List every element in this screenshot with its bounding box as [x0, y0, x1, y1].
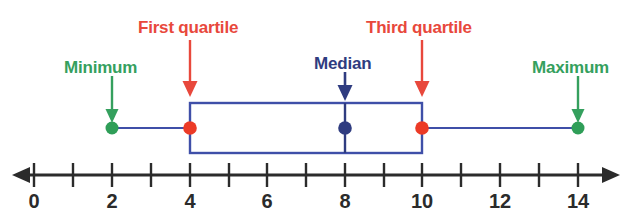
axis-right-arrowhead [602, 167, 620, 183]
interquartile-box [190, 103, 422, 153]
boxplot-diagram: Minimum First quartile Median Third quar… [0, 0, 632, 218]
first-quartile-arrow [183, 40, 198, 97]
median-arrow [338, 72, 353, 101]
third-quartile-dot [415, 121, 429, 135]
maximum-dot [572, 122, 585, 135]
tick-label-14: 14 [567, 190, 589, 213]
third-quartile-label: Third quartile [366, 18, 472, 38]
maximum-label: Maximum [532, 58, 609, 78]
median-dot [338, 121, 352, 135]
tick-label-4: 4 [184, 190, 195, 213]
boxplot-graphic [0, 0, 632, 218]
tick-label-8: 8 [339, 190, 350, 213]
tick-label-0: 0 [28, 190, 39, 213]
median-label: Median [314, 54, 371, 74]
tick-label-10: 10 [411, 190, 433, 213]
tick-label-12: 12 [489, 190, 511, 213]
tick-label-2: 2 [106, 190, 117, 213]
first-quartile-label: First quartile [138, 18, 238, 38]
third-quartile-arrow [415, 40, 430, 97]
minimum-arrow [106, 76, 119, 123]
number-line-axis [12, 163, 620, 187]
minimum-dot [106, 122, 119, 135]
minimum-label: Minimum [64, 58, 137, 78]
axis-left-arrowhead [12, 167, 30, 183]
maximum-arrow [572, 76, 585, 123]
first-quartile-dot [183, 121, 197, 135]
tick-label-6: 6 [261, 190, 272, 213]
